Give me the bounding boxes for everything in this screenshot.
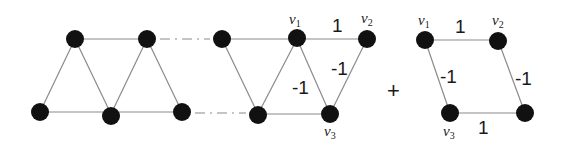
weight-v1-v2: 1 — [332, 15, 343, 36]
node-v2 — [358, 30, 376, 48]
label-v3: v3 — [324, 123, 336, 141]
edge — [222, 39, 258, 114]
weight-top: 1 — [455, 16, 466, 37]
node-v3 — [321, 105, 339, 123]
node-v1 — [416, 31, 434, 49]
edge — [75, 39, 111, 114]
node — [66, 30, 84, 48]
graph-diagram: v1 v2 v3 1 -1 -1 + v1 v2 v3 1 -1 -1 1 — [0, 0, 561, 146]
node — [516, 104, 534, 122]
node-v3 — [441, 104, 459, 122]
weight-left: -1 — [440, 66, 457, 87]
label-v1: v1 — [418, 12, 430, 30]
weight-right: -1 — [515, 68, 532, 89]
label-v2: v2 — [492, 12, 504, 30]
left-strip — [40, 39, 182, 114]
node-v2 — [489, 32, 507, 50]
nodes — [31, 29, 534, 125]
node — [138, 30, 156, 48]
plus-operator: + — [387, 78, 400, 103]
edge — [111, 39, 147, 114]
node — [213, 30, 231, 48]
weight-v2-v3: -1 — [331, 58, 348, 79]
edge — [147, 39, 182, 112]
node — [249, 106, 267, 124]
node — [102, 107, 120, 125]
label-v2: v2 — [361, 10, 373, 28]
node — [173, 103, 191, 121]
weight-bottom: 1 — [478, 117, 489, 138]
label-v3: v3 — [443, 123, 455, 141]
edge — [40, 39, 75, 112]
node-v1 — [288, 29, 306, 47]
node — [31, 103, 49, 121]
weight-v1-v3: -1 — [292, 77, 309, 98]
label-v1: v1 — [289, 11, 301, 29]
